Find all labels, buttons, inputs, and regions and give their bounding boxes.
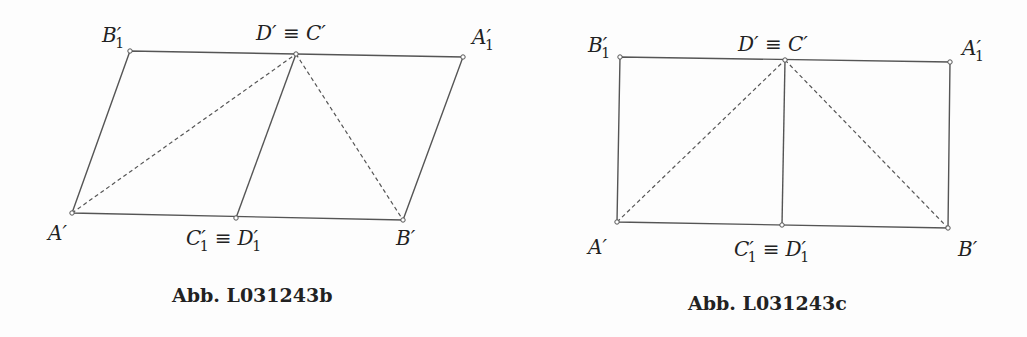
label-b: B′: [957, 237, 978, 261]
label-b1: B′1: [587, 33, 610, 61]
label-a: A′: [586, 235, 607, 259]
point-b: [401, 218, 405, 222]
label-b: B′: [395, 226, 416, 250]
segment-c1-d: [236, 54, 296, 218]
dashed-segment-d-b: [296, 54, 403, 220]
point-a1: [461, 55, 465, 59]
point-d-c: [294, 52, 298, 56]
label-b1: B′1: [101, 23, 124, 51]
segment-c1-d: [782, 60, 785, 225]
label-a1: A′1: [960, 36, 984, 64]
point-d-c: [783, 58, 787, 62]
label-d-c: D′ ≡ C′: [255, 21, 326, 45]
label-a1: A′1: [470, 25, 494, 53]
point-c1-d1: [780, 223, 784, 227]
point-a: [70, 211, 74, 215]
label-a: A′: [46, 221, 67, 245]
point-a1: [948, 60, 952, 64]
figure-parallelogram: B′1 D′ ≡ C′ A′1 A′ C′1≡D′1 B′ Abb. L0312…: [46, 21, 494, 306]
figure-rectangle: B′1 D′ ≡ C′ A′1 A′ C′1≡D′1 B′ Abb. L0312…: [586, 32, 984, 314]
label-c1-d1: C′1≡D′1: [734, 237, 809, 265]
point-c1-d1: [234, 216, 238, 220]
dashed-segment-a-d: [617, 60, 785, 222]
label-d-c: D′ ≡ C′: [737, 32, 808, 56]
parallelogram-outline: [72, 51, 463, 220]
point-b1: [618, 55, 622, 59]
dashed-segment-d-b: [785, 60, 948, 228]
dashed-segment-a-d: [72, 54, 296, 213]
point-a: [615, 220, 619, 224]
caption-left: Abb. L031243b: [171, 284, 333, 306]
point-b1: [128, 49, 132, 53]
label-c1-d1: C′1≡D′1: [186, 226, 261, 254]
caption-right: Abb. L031243c: [687, 292, 847, 314]
point-b: [946, 226, 950, 230]
diagram-canvas: B′1 D′ ≡ C′ A′1 A′ C′1≡D′1 B′ Abb. L0312…: [0, 0, 1027, 337]
